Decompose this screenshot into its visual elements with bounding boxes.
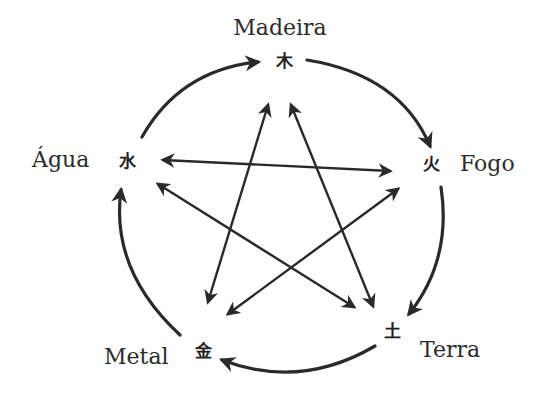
glyph-water-icon: 水: [119, 151, 137, 171]
glyph-earth-icon: 土: [384, 321, 401, 341]
arrow-madeira-to-fogo: [307, 60, 430, 146]
five-elements-diagram: Madeira 木 Fogo 火 Terra 土 Metal 金 Água 水: [0, 0, 544, 396]
label-terra: Terra: [420, 337, 480, 362]
arrow-fogo-metal: [228, 189, 398, 314]
arrow-fogo-to-terra: [409, 187, 443, 314]
label-madeira: Madeira: [233, 15, 326, 40]
arrow-agua-to-madeira: [142, 62, 258, 137]
arrow-agua-fogo: [163, 160, 390, 171]
glyph-wood-icon: 木: [275, 51, 294, 71]
label-fogo: Fogo: [460, 151, 515, 176]
glyph-fire-icon: 火: [423, 154, 441, 174]
arrow-agua-terra: [158, 184, 354, 307]
label-agua: Água: [31, 146, 89, 172]
glyph-metal-icon: 金: [194, 341, 213, 361]
arrow-metal-to-agua: [120, 190, 180, 335]
label-metal: Metal: [104, 344, 169, 369]
arrow-madeira-metal: [208, 105, 268, 302]
arrow-terra-to-metal: [222, 346, 375, 372]
